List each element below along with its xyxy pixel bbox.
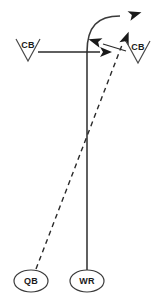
pass-trajectory-group (36, 30, 133, 269)
route-end-arrow-icon (128, 7, 143, 20)
cb-press-group (38, 47, 112, 57)
press-end-arrow-icon (100, 47, 112, 57)
defender-marker-cb-left[interactable]: CB (16, 39, 40, 61)
wr-label: WR (79, 276, 95, 286)
play-diagram-canvas: CB CB QB WR (0, 0, 153, 306)
play-diagram-svg: CB CB QB WR (0, 0, 153, 306)
cb-right-label: CB (131, 42, 145, 52)
player-marker-wr[interactable]: WR (70, 270, 104, 292)
pass-trajectory-path (36, 45, 122, 269)
player-marker-qb[interactable]: QB (14, 270, 48, 292)
cb-left-label: CB (21, 40, 35, 50)
defender-marker-cb-right[interactable]: CB (126, 41, 150, 63)
qb-label: QB (24, 276, 38, 286)
